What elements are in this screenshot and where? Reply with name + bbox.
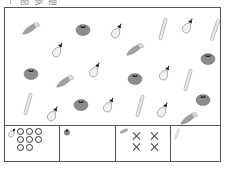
eggplant-icon <box>87 61 103 83</box>
radish-icon <box>174 128 180 140</box>
carrot-icon <box>19 21 41 40</box>
eggplant-icon <box>8 128 16 138</box>
eggplant-icon <box>180 17 196 39</box>
carrot-icon <box>119 128 129 134</box>
circle-mark <box>35 136 42 143</box>
tomato-icon <box>195 91 211 110</box>
eggplant-icon <box>155 101 171 123</box>
circle-mark <box>17 136 24 143</box>
cross-marks <box>132 132 158 151</box>
worksheet-frame <box>4 7 221 162</box>
radish-icon <box>23 92 33 120</box>
circle-mark <box>26 128 33 135</box>
tomato-icon <box>127 70 143 89</box>
circle-mark <box>17 144 24 151</box>
tomato-icon <box>63 128 71 136</box>
tally-cell-eggplant <box>5 126 60 162</box>
vegetable-field <box>5 8 220 125</box>
circle-mark <box>35 128 42 135</box>
cross-mark <box>150 143 158 151</box>
header-partial-text: 个 图 多 插 <box>6 0 58 7</box>
tomato-icon <box>75 21 91 40</box>
circle-mark <box>26 144 33 151</box>
tomato-icon <box>200 50 216 69</box>
eggplant-icon <box>50 41 66 63</box>
radish-icon <box>135 94 145 122</box>
cross-mark <box>150 132 158 140</box>
cross-mark <box>132 143 140 151</box>
carrot-icon <box>123 42 145 61</box>
tomato-icon <box>23 65 39 84</box>
cross-mark <box>132 132 140 140</box>
tally-cell-radish <box>171 126 220 162</box>
circle-mark <box>17 128 24 135</box>
tomato-icon <box>73 96 89 115</box>
eggplant-icon <box>45 105 61 127</box>
circle-mark <box>26 136 33 143</box>
tally-cell-tomato <box>60 126 116 162</box>
radish-icon <box>158 17 168 45</box>
eggplant-icon <box>109 22 125 44</box>
carrot-icon <box>53 74 75 93</box>
circle-marks <box>17 128 42 151</box>
radish-icon <box>183 68 193 96</box>
tally-cell-carrot <box>116 126 171 162</box>
eggplant-icon <box>101 96 117 118</box>
radish-icon <box>210 18 220 46</box>
tally-table <box>5 125 220 162</box>
eggplant-icon <box>157 64 173 86</box>
